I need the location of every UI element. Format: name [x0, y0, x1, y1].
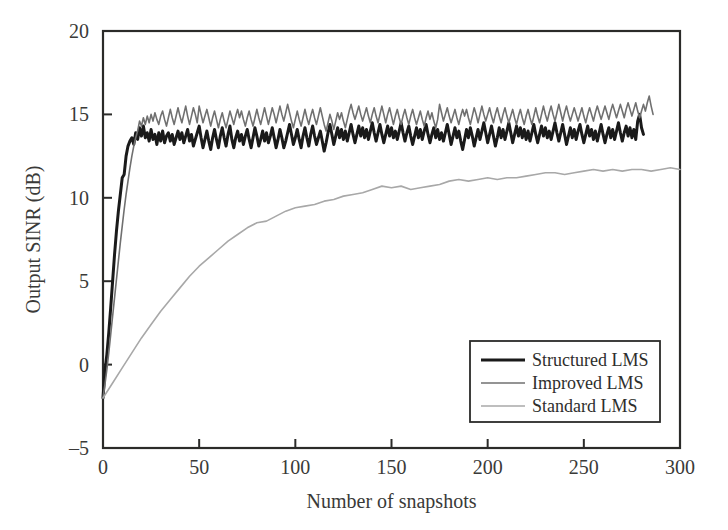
chart-plot-svg: –505101520 050100150200250300 Number of … [0, 0, 728, 530]
y-tick-label: 20 [69, 20, 89, 42]
legend-label: Structured LMS [532, 350, 649, 370]
y-axis-title: Output SINR (dB) [22, 166, 45, 314]
y-tick-label: 15 [69, 103, 89, 125]
x-tick-label: 150 [377, 456, 407, 478]
legend-label: Standard LMS [532, 396, 638, 416]
x-axis-title: Number of snapshots [307, 490, 477, 513]
y-tick-label: 5 [79, 270, 89, 292]
x-tick-label: 300 [665, 456, 695, 478]
chart-legend: Structured LMSImproved LMSStandard LMS [470, 341, 660, 422]
y-tick-label: –5 [68, 437, 89, 459]
chart-background [0, 0, 728, 530]
y-tick-label: 0 [79, 354, 89, 376]
chart-figure: –505101520 050100150200250300 Number of … [0, 0, 728, 530]
x-tick-label: 0 [98, 456, 108, 478]
x-tick-label: 50 [189, 456, 209, 478]
legend-label: Improved LMS [532, 373, 644, 393]
y-tick-label: 10 [69, 187, 89, 209]
x-tick-label: 200 [473, 456, 503, 478]
x-tick-label: 250 [569, 456, 599, 478]
x-tick-label: 100 [280, 456, 310, 478]
